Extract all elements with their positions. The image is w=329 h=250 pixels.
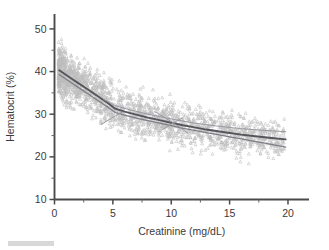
scatter-point xyxy=(157,97,160,100)
scatter-point xyxy=(89,77,92,80)
scatter-point xyxy=(169,93,172,96)
scatter-point xyxy=(247,152,250,155)
scatter-point xyxy=(214,115,217,118)
scatter-point xyxy=(163,103,166,106)
scatter-point xyxy=(273,147,276,150)
scatter-point xyxy=(125,85,128,88)
scatter-point xyxy=(118,79,121,82)
scatter-point xyxy=(181,142,184,145)
scatter-point xyxy=(89,66,92,69)
x-tick-label: 20 xyxy=(282,207,294,219)
scatter-point xyxy=(256,149,259,152)
scatter-point xyxy=(231,108,234,111)
scatter-point xyxy=(283,117,286,120)
scatter-point xyxy=(199,152,202,155)
scatter-point xyxy=(256,120,259,123)
scatter-point xyxy=(123,126,126,129)
scatter-point xyxy=(211,152,214,155)
scatter-point xyxy=(57,41,60,44)
scatter-point xyxy=(83,57,86,60)
scatter-point xyxy=(98,74,101,77)
scatter-point xyxy=(142,85,145,88)
scatter-point xyxy=(244,112,247,115)
scatter-point xyxy=(175,140,178,143)
x-axis-title: Creatinine (mg/dL) xyxy=(138,225,225,237)
scatter-point xyxy=(147,97,150,100)
scatter-point xyxy=(200,149,203,152)
scatter-point xyxy=(254,117,257,120)
scatter-point xyxy=(237,112,240,115)
scatter-point xyxy=(259,151,262,154)
scatter-point xyxy=(113,97,116,100)
scatter-point xyxy=(112,87,115,90)
scatter-point xyxy=(143,128,146,131)
scatter-point xyxy=(275,123,278,126)
scatter-point xyxy=(237,124,240,127)
scatter-point xyxy=(132,101,135,104)
y-tick-label: 50 xyxy=(35,23,47,35)
scatter-point xyxy=(197,104,200,107)
scatter-point xyxy=(151,88,154,91)
scatter-point xyxy=(218,116,221,119)
y-axis-tick-labels: 1020304050 xyxy=(35,23,47,206)
scatter-point xyxy=(108,76,111,79)
scatter-point xyxy=(161,96,164,99)
scatter-point xyxy=(91,117,94,120)
scatter-point xyxy=(220,115,223,118)
scatter-point xyxy=(191,151,194,154)
scatter-point xyxy=(72,60,75,63)
scatter-point xyxy=(176,148,179,151)
scatter-point xyxy=(192,111,195,114)
scatter-point xyxy=(115,88,118,91)
scatter-point xyxy=(85,70,88,73)
scatter-point xyxy=(181,105,184,108)
scatter-point xyxy=(239,160,242,163)
y-tick-label: 10 xyxy=(35,193,47,205)
scatter-point xyxy=(91,114,94,117)
scatter-point xyxy=(172,108,175,111)
scatter-point xyxy=(60,38,63,41)
y-tick-label: 40 xyxy=(35,65,47,77)
y-tick-label: 30 xyxy=(35,108,47,120)
chart-figure: 1020304050 05101520 Hematocrit (%) Creat… xyxy=(0,0,329,250)
scatter-point xyxy=(254,124,257,127)
scatter-point xyxy=(61,45,64,48)
scatter-point xyxy=(248,120,251,123)
scatter-point xyxy=(226,115,229,118)
scatter-point xyxy=(210,143,213,146)
scatter-point xyxy=(134,137,137,140)
x-tick-label: 0 xyxy=(52,207,58,219)
scatter-point xyxy=(199,110,202,113)
scatter-point xyxy=(128,134,131,137)
scatter-point xyxy=(267,156,270,159)
scatter-point xyxy=(168,149,171,152)
scatter-point xyxy=(86,62,89,65)
scatter-point xyxy=(60,42,63,45)
scatter-point xyxy=(199,106,202,109)
scatter-point xyxy=(76,56,79,59)
scatter-plot-svg: 1020304050 05101520 Hematocrit (%) Creat… xyxy=(0,0,329,250)
scatter-point xyxy=(230,113,233,116)
scatter-point xyxy=(208,109,211,112)
scatter-point xyxy=(96,72,99,75)
scan-artifact-mark xyxy=(8,241,54,246)
scatter-points-layer xyxy=(57,38,286,165)
scatter-point xyxy=(105,127,108,130)
scatter-point xyxy=(272,157,275,160)
scatter-point xyxy=(251,120,254,123)
scatter-point xyxy=(158,138,161,141)
scatter-point xyxy=(191,140,194,143)
scatter-point xyxy=(264,122,267,125)
scatter-point xyxy=(164,129,167,132)
scatter-point xyxy=(190,147,193,150)
scatter-point xyxy=(64,47,67,50)
x-tick-label: 15 xyxy=(224,207,236,219)
scatter-point xyxy=(231,140,234,143)
scatter-point xyxy=(277,152,280,155)
x-tick-label: 10 xyxy=(165,207,177,219)
scatter-point xyxy=(247,162,250,165)
scatter-point xyxy=(207,115,210,118)
scatter-point xyxy=(176,136,179,139)
scatter-point xyxy=(117,129,120,132)
scatter-point xyxy=(65,55,68,58)
